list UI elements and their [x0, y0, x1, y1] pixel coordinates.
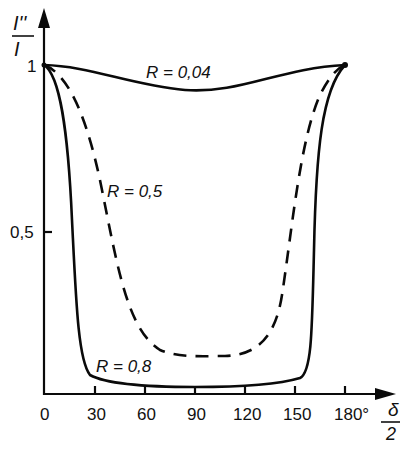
label-r-0-04: R = 0,04 [146, 63, 211, 82]
x-tick-label-150: 150 [283, 405, 311, 424]
y-label-denominator: I [14, 38, 20, 60]
x-tick-label-180: 180° [334, 405, 369, 424]
x-label-numerator: δ [388, 399, 399, 420]
curve-r-0-8 [44, 65, 345, 387]
x-axis-label: δ 2 [381, 399, 400, 444]
y-axis-label: I'' I [12, 12, 34, 60]
y-tick-label-1: 1 [27, 57, 36, 76]
chart: I'' I 1 0,5 0 30 60 90 120 150 180° δ 2 … [0, 0, 413, 455]
x-tick-label-0: 0 [40, 405, 49, 424]
start-point [42, 63, 47, 68]
label-r-0-5: R = 0,5 [107, 182, 163, 201]
y-label-numerator: I'' [13, 12, 27, 34]
x-label-denominator: 2 [385, 424, 396, 444]
x-tick-label-120: 120 [233, 405, 261, 424]
x-tick-label-30: 30 [87, 405, 106, 424]
label-r-0-8: R = 0,8 [96, 357, 152, 376]
x-tick-label-90: 90 [187, 405, 206, 424]
y-axis-arrow-icon [38, 8, 50, 28]
curve-r-0-5 [44, 65, 345, 356]
x-tick-label-60: 60 [137, 405, 156, 424]
y-tick-label-0-5: 0,5 [10, 223, 34, 242]
end-point [342, 62, 348, 68]
